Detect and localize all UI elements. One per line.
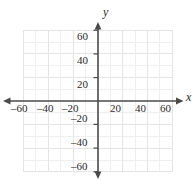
y-axis-down-arrowhead bbox=[95, 172, 102, 180]
y-tick-label-neg20: ‒20 bbox=[71, 113, 88, 124]
x-tick-label-40: 40 bbox=[135, 103, 146, 114]
coordinate-plane-figure: ‒60 ‒40 ‒20 20 40 60 60 40 20 ‒20 ‒40 ‒6… bbox=[0, 0, 195, 187]
y-tick-label-40: 40 bbox=[77, 55, 88, 66]
y-tick-label-60: 60 bbox=[77, 31, 88, 42]
x-axis-line bbox=[3, 98, 184, 105]
y-tick-label-neg40: ‒40 bbox=[71, 137, 88, 148]
coordinate-grid-svg bbox=[0, 0, 195, 187]
x-axis-left-arrowhead bbox=[3, 98, 11, 105]
y-axis-label: y bbox=[103, 6, 108, 18]
x-tick-label-neg40: ‒40 bbox=[37, 103, 54, 114]
x-axis-label: x bbox=[186, 91, 191, 103]
y-tick-label-20: 20 bbox=[77, 79, 88, 90]
x-tick-label-60: 60 bbox=[160, 103, 171, 114]
x-tick-label-20: 20 bbox=[110, 103, 121, 114]
x-tick-label-neg60: ‒60 bbox=[11, 103, 28, 114]
y-tick-label-neg60: ‒60 bbox=[71, 161, 88, 172]
y-axis-up-arrowhead bbox=[95, 22, 102, 30]
x-axis-right-arrowhead bbox=[176, 98, 184, 105]
